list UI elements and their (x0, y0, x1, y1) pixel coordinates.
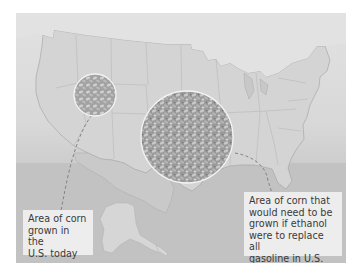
label-line: Area of corn that (249, 195, 337, 207)
label-ethanol-corn-area: Area of corn that would need to be grown… (244, 192, 342, 256)
corn-circle-ethanol (141, 91, 233, 183)
label-line: Area of corn (28, 213, 88, 225)
corn-circle-current (74, 74, 116, 116)
label-line: were to replace all (249, 230, 337, 253)
label-line: gasoline in U.S. (249, 253, 337, 264)
label-line: would need to be (249, 207, 337, 219)
label-line: grown if ethanol (249, 218, 337, 230)
label-line: U.S. today (28, 248, 88, 260)
label-current-corn-area: Area of corn grown in the U.S. today (23, 210, 93, 255)
label-line: grown in the (28, 225, 88, 248)
us-corn-map-figure: Area of corn grown in the U.S. today Are… (16, 13, 346, 263)
